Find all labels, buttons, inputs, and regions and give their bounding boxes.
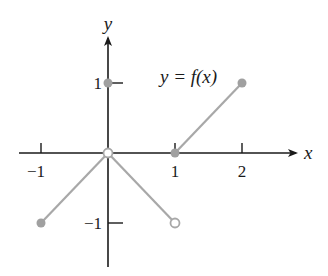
x-tick-label: 2 [238, 162, 247, 181]
closed-point [171, 149, 180, 158]
function-segment [175, 83, 242, 153]
y-tick-label: 1 [94, 74, 103, 93]
open-point [104, 149, 113, 158]
function-segment [108, 153, 175, 223]
closed-point [37, 219, 46, 228]
x-tick-label: −1 [27, 162, 45, 181]
function-label: y = f(x) [158, 66, 217, 88]
closed-point [104, 79, 113, 88]
axis-labels: −1121−1xyy = f(x) [27, 13, 313, 233]
closed-point [238, 79, 247, 88]
open-point [171, 219, 180, 228]
x-axis-label: x [303, 142, 313, 163]
function-graph: −1121−1xyy = f(x) [0, 0, 328, 276]
y-tick-label: −1 [84, 214, 102, 233]
axes [19, 38, 296, 267]
x-tick-label: 1 [171, 162, 180, 181]
y-axis-label: y [102, 13, 113, 34]
function-segment [41, 153, 108, 223]
